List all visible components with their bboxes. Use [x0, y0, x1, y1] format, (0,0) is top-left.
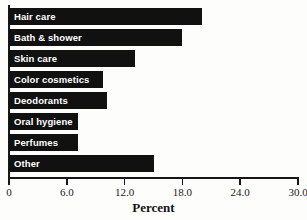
x-axis-tick-label: 12.0	[115, 186, 134, 198]
bar-label: Bath & shower	[14, 29, 82, 46]
x-axis-title: Percent	[0, 200, 307, 216]
bar-label: Color cosmetics	[14, 71, 89, 88]
x-axis-tick-label: 0	[6, 186, 12, 198]
x-axis-tick-label: 24.0	[231, 186, 250, 198]
chart-title-clipped	[0, 0, 307, 7]
x-axis-tick-label: 30.0	[288, 186, 307, 198]
x-axis-tick	[239, 179, 241, 185]
bar-label: Skin care	[14, 50, 57, 67]
x-axis-tick	[124, 179, 126, 185]
x-axis-line	[8, 177, 299, 179]
bar-chart: Hair careBath & showerSkin careColor cos…	[0, 0, 307, 220]
bar-label: Other	[14, 155, 40, 172]
x-axis-tick	[297, 179, 299, 185]
x-axis-tick	[66, 179, 68, 185]
x-axis-tick-label: 18.0	[173, 186, 192, 198]
plot-area: Hair careBath & showerSkin careColor cos…	[9, 7, 298, 177]
x-axis-tick-label: 6.0	[60, 186, 74, 198]
bar-label: Deodorants	[14, 92, 68, 109]
x-axis-tick	[182, 179, 184, 185]
bar-label: Perfumes	[14, 134, 58, 151]
bar-label: Oral hygiene	[14, 113, 73, 130]
bar-label: Hair care	[14, 8, 56, 25]
x-axis-tick	[8, 179, 10, 185]
